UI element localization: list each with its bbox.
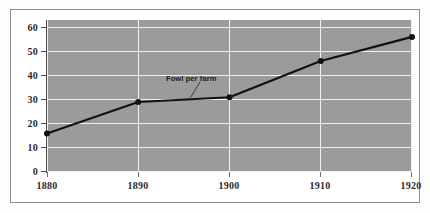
annotation-leader-line: [191, 82, 201, 98]
chart-figure: 60 50 40 30 20 10 0 1880 1890 1900 1910 …: [0, 0, 430, 213]
annotation-leader-layer: [0, 0, 430, 213]
annotation-label-fowl-per-farm: Fowl per farm: [166, 74, 216, 83]
